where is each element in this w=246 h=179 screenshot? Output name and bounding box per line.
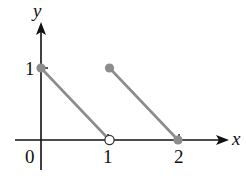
segments [41, 68, 178, 140]
segment-1-line [41, 68, 110, 140]
x-tick-label-1: 1 [103, 147, 113, 166]
closed-endpoint [36, 63, 45, 72]
segment-2-line [110, 68, 179, 140]
y-axis-label: y [33, 1, 41, 20]
closed-endpoint [105, 63, 114, 72]
open-endpoint [105, 135, 114, 144]
endpoints [36, 63, 182, 144]
x-tick-label-2: 2 [174, 147, 184, 166]
closed-endpoint [173, 135, 182, 144]
chart-canvas [0, 0, 246, 179]
y-tick-label-1: 1 [25, 59, 35, 78]
x-axis-label: x [232, 129, 240, 148]
origin-label: 0 [25, 147, 35, 166]
